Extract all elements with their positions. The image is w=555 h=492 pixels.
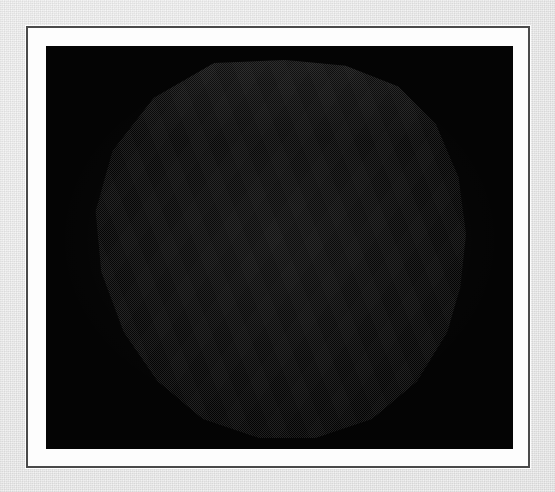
- scanned-page: [0, 0, 555, 492]
- figure-plate-matte: [28, 28, 528, 466]
- sphere-body: [90, 60, 466, 438]
- figure-caption: [0, 0, 1, 1]
- figure-plate-frame: [26, 26, 530, 468]
- faceted-sphere-figure: [90, 60, 466, 438]
- rendered-image-panel: [46, 46, 513, 449]
